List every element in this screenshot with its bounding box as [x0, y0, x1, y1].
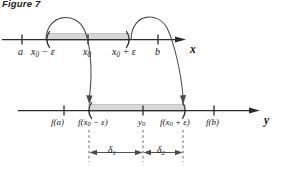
x-axis-name: x — [190, 44, 196, 56]
mapping-arrow-right-head — [180, 95, 186, 104]
figure-container: Figure 7 a x0 − ε x0 x0 + ε b x f(a) f(x… — [0, 0, 281, 169]
figure-graphics — [0, 0, 281, 169]
x-tick-label-b: b — [155, 47, 160, 57]
delta1-arrowhead-right — [135, 150, 143, 156]
x-axis-arrowhead — [175, 36, 186, 42]
y-tick-label-f-b: f(b) — [206, 118, 219, 127]
y-tick-label-y0: y0 — [138, 118, 145, 128]
figure-caption: Figure 7 — [2, 0, 41, 9]
delta2-arrowhead-right — [175, 150, 183, 156]
x-tick-label-x0-plus-eps: x0 + ε — [112, 47, 136, 59]
delta1-label: δ1 — [108, 146, 116, 156]
delta2-label: δ2 — [157, 146, 165, 156]
y-axis-name: y — [264, 115, 269, 127]
y-tick-label-f-x0-minus-eps: f(x0 − ε) — [78, 118, 108, 128]
x-tick-label-a: a — [18, 47, 23, 57]
delta-dimension-group — [89, 130, 183, 162]
x-tick-label-x0: x0 — [83, 47, 91, 59]
y-axis-arrowhead — [249, 107, 260, 113]
x-tick-label-x0-minus-eps: x0 − ε — [31, 47, 55, 59]
mapping-arrows-group — [46, 17, 186, 104]
y-tick-label-f-x0-plus-eps: f(x0 + ε) — [160, 118, 190, 128]
y-tick-label-f-a: f(a) — [51, 118, 64, 127]
delta1-arrowhead-left — [90, 150, 98, 156]
delta2-arrowhead-left — [144, 150, 152, 156]
